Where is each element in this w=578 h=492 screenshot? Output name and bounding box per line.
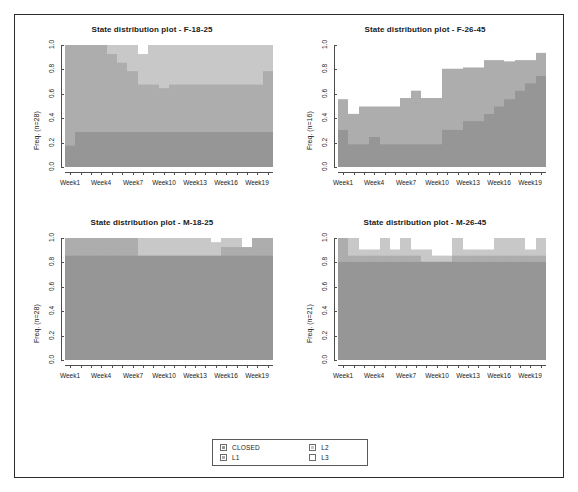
x-axis-tick — [174, 365, 175, 368]
x-axis-tick — [247, 172, 248, 175]
legend-grid: CLOSEDL2L1L3 — [220, 444, 360, 461]
y-axis-tick — [334, 94, 337, 95]
x-axis-tick — [406, 172, 407, 175]
x-axis-tick-label: Week13 — [454, 179, 482, 186]
y-axis-line — [61, 238, 62, 360]
plot-area — [65, 238, 273, 360]
legend-item[interactable]: L2 — [309, 444, 360, 451]
x-axis-tick — [447, 172, 448, 175]
stacked-area-canvas — [65, 238, 273, 360]
y-axis-tick — [61, 287, 64, 288]
legend-label: CLOSED — [232, 444, 260, 451]
y-axis-tick-label: 0.4 — [48, 110, 55, 126]
y-axis-tick — [334, 45, 337, 46]
y-axis-tick-label: 0.0 — [321, 159, 328, 175]
y-axis-tick — [61, 45, 64, 46]
x-axis-tick-label: Week1 — [329, 179, 357, 186]
legend-label: L3 — [321, 454, 329, 461]
legend-item[interactable]: L3 — [309, 454, 360, 461]
legend-swatch-icon — [220, 444, 227, 451]
y-axis-tick-label: 0.6 — [321, 86, 328, 102]
panel-title: State distribution plot - M-18-25 — [23, 218, 281, 227]
x-axis-tick — [354, 365, 355, 368]
x-axis-tick — [164, 365, 165, 368]
x-axis-tick — [468, 365, 469, 368]
x-axis-tick — [112, 365, 113, 368]
y-axis-tick-label: 0.8 — [321, 61, 328, 77]
panel-m-18-25: State distribution plot - M-18-25 Freq. … — [23, 218, 281, 390]
x-axis-line — [65, 172, 273, 173]
x-axis-tick — [247, 365, 248, 368]
x-axis-tick — [426, 365, 427, 368]
y-axis-line — [334, 45, 335, 167]
y-axis-tick — [334, 143, 337, 144]
y-axis-tick — [61, 336, 64, 337]
x-axis-tick — [426, 172, 427, 175]
y-axis-tick-label: 1.0 — [48, 230, 55, 246]
x-axis-tick-label: Week19 — [516, 179, 544, 186]
x-axis-tick — [133, 365, 134, 368]
y-axis-tick-label: 1.0 — [321, 37, 328, 53]
x-axis-tick — [520, 172, 521, 175]
x-axis-tick — [385, 365, 386, 368]
x-axis-tick — [195, 365, 196, 368]
x-axis-tick — [205, 365, 206, 368]
x-axis-tick — [133, 172, 134, 175]
x-axis-tick-label: Week1 — [56, 179, 84, 186]
legend-item[interactable]: CLOSED — [220, 444, 291, 451]
panel-f-18-25: State distribution plot - F-18-25 Freq. … — [23, 25, 281, 197]
y-axis-tick-label: 0.2 — [48, 328, 55, 344]
x-axis-tick — [530, 172, 531, 175]
x-axis-tick — [458, 365, 459, 368]
panel-m-26-45: State distribution plot - M-26-45 Freq. … — [296, 218, 554, 390]
x-axis-tick — [416, 365, 417, 368]
x-axis-tick — [364, 365, 365, 368]
y-axis-tick — [61, 118, 64, 119]
x-axis-tick-label: Week7 — [119, 372, 147, 379]
x-axis-tick — [354, 172, 355, 175]
y-axis-tick-label: 0.2 — [321, 135, 328, 151]
x-axis-tick-label: Week10 — [150, 179, 178, 186]
x-axis-line — [65, 365, 273, 366]
x-axis-tick — [91, 172, 92, 175]
y-axis-tick-label: 0.8 — [48, 254, 55, 270]
x-axis-tick — [343, 172, 344, 175]
x-axis-tick — [101, 172, 102, 175]
x-axis-tick — [530, 365, 531, 368]
x-axis-tick — [153, 172, 154, 175]
y-axis-tick — [61, 360, 64, 361]
x-axis-tick — [70, 172, 71, 175]
y-axis-tick — [334, 238, 337, 239]
panel-title: State distribution plot - F-18-25 — [23, 25, 281, 34]
x-axis-tick-label: Week13 — [181, 179, 209, 186]
x-axis-tick-label: Week10 — [423, 179, 451, 186]
y-axis-label: Freq. (n=28) — [33, 304, 40, 343]
x-axis-tick — [520, 365, 521, 368]
x-axis-tick — [268, 172, 269, 175]
plot-area — [65, 45, 273, 167]
figure-frame: State distribution plot - F-18-25 Freq. … — [14, 14, 564, 478]
y-axis-label: Freq. (n=21) — [306, 304, 313, 343]
x-axis-tick — [70, 365, 71, 368]
x-axis-line — [338, 172, 546, 173]
x-axis-tick — [385, 172, 386, 175]
y-axis-tick — [61, 69, 64, 70]
x-axis-tick — [468, 172, 469, 175]
x-axis-tick-label: Week13 — [181, 372, 209, 379]
panel-title: State distribution plot - M-26-45 — [296, 218, 554, 227]
y-axis-tick — [334, 287, 337, 288]
x-axis-tick — [499, 172, 500, 175]
legend-swatch-icon — [220, 454, 227, 461]
x-axis-tick-label: Week1 — [329, 372, 357, 379]
x-axis-tick — [143, 365, 144, 368]
x-axis-tick — [185, 172, 186, 175]
x-axis-tick — [478, 172, 479, 175]
x-axis-tick-label: Week19 — [243, 372, 271, 379]
y-axis-tick — [61, 143, 64, 144]
x-axis-tick — [343, 365, 344, 368]
y-axis-tick — [334, 69, 337, 70]
legend-item[interactable]: L1 — [220, 454, 291, 461]
x-axis-tick — [416, 172, 417, 175]
x-axis-tick-label: Week4 — [87, 372, 115, 379]
x-axis-tick — [541, 172, 542, 175]
